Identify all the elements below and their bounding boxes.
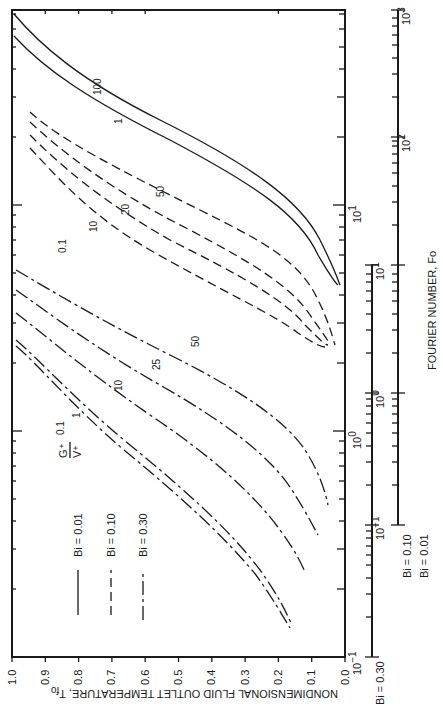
legend: Bi = 0.01 Bi = 0.10 Bi = 0.30 [72, 513, 149, 620]
svg-text:20: 20 [120, 203, 131, 215]
curve-labels: 100 1 50 20 10 0.1 50 25 10 0.1 1 [55, 78, 201, 435]
legend-label-bi-001: Bi = 0.01 [72, 513, 84, 557]
parameter-label: G⁺ V⁺ [57, 442, 83, 458]
svg-text:0.3: 0.3 [239, 670, 251, 685]
svg-text:0.0: 0.0 [339, 670, 351, 685]
chart: 1.0 0.9 0.8 0.7 0.6 0.5 0.4 0.3 0.2 0.1 … [0, 0, 443, 714]
svg-text:10: 10 [88, 220, 99, 232]
x-axis-title: FOURIER NUMBER, Fo [426, 251, 438, 370]
svg-text:0.4: 0.4 [205, 670, 217, 685]
svg-text:101: 101 [347, 205, 363, 223]
svg-text:100: 100 [92, 78, 103, 95]
svg-text:50: 50 [155, 185, 166, 197]
svg-text:1: 1 [71, 412, 82, 418]
svg-text:G⁺: G⁺ [57, 443, 69, 458]
x-axis-bi-010: 10−1 100 101 102 103 Bi = 0.10 Bi = 0.01 [370, 7, 430, 578]
x-axis-bi-030: Bi = 0.30 [365, 265, 386, 705]
axis-name-bi-030: Bi = 0.30 [374, 661, 386, 705]
svg-text:100: 100 [347, 431, 363, 449]
svg-text:0.9: 0.9 [39, 670, 51, 685]
y-axis-title: NONDIMENSIONAL FLUID OUTLET TEMPERATURE,… [51, 685, 338, 700]
axis-name-bi-001: Bi = 0.01 [418, 534, 430, 578]
svg-text:0.1: 0.1 [305, 670, 317, 685]
svg-text:0.6: 0.6 [139, 670, 151, 685]
inner-decade-labels: 10−1 100 101 [347, 205, 363, 675]
svg-text:0.2: 0.2 [272, 670, 284, 685]
svg-text:1: 1 [113, 118, 124, 124]
axis-name-bi-010: Bi = 0.10 [401, 534, 413, 578]
temperature-tick-labels: 1.0 0.9 0.8 0.7 0.6 0.5 0.4 0.3 0.2 0.1 … [6, 670, 351, 685]
svg-text:0.5: 0.5 [172, 670, 184, 685]
svg-text:0.7: 0.7 [105, 670, 117, 685]
svg-text:1.0: 1.0 [6, 670, 18, 685]
legend-label-bi-010: Bi = 0.10 [105, 513, 117, 557]
temperature-ticks [12, 10, 345, 662]
svg-text:10: 10 [113, 379, 124, 391]
right-frame-ticks [333, 14, 345, 589]
svg-text:0.1: 0.1 [57, 239, 68, 253]
svg-text:25: 25 [151, 358, 162, 370]
plot-frame [12, 10, 345, 657]
svg-text:0.8: 0.8 [72, 670, 84, 685]
svg-text:V⁺: V⁺ [71, 445, 83, 458]
inner-log-ticks [12, 14, 22, 657]
legend-label-bi-030: Bi = 0.30 [137, 513, 149, 557]
svg-text:0.1: 0.1 [55, 421, 66, 435]
svg-text:50: 50 [190, 335, 201, 347]
